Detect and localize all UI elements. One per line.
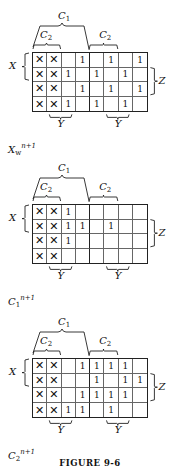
kmap-cell: ✕ — [47, 374, 61, 389]
kmap-cell: 1 — [119, 388, 133, 403]
kmap-cell — [133, 403, 147, 418]
kmap-cell: ✕ — [47, 68, 61, 83]
kmap-cell — [104, 234, 118, 249]
kmap-cell — [90, 82, 104, 97]
karnaugh-map-3: C1C2C2XZYY✕✕1111✕✕111✕✕1111✕✕111C2n+1 — [0, 306, 180, 456]
y-label-left: Y — [58, 118, 65, 129]
kmap-cell — [133, 249, 147, 264]
kmap-cell — [76, 97, 90, 112]
kmap-cell — [104, 97, 118, 112]
kmap-cell — [119, 234, 133, 249]
kmap-cell — [62, 53, 76, 68]
kmap-grid: ✕✕1111✕✕111✕✕1111✕✕111 — [32, 358, 148, 418]
kmap-cell: 1 — [119, 359, 133, 374]
kmap-grid: ✕✕111✕✕111✕✕111✕✕111 — [32, 52, 148, 112]
kmap-cell: ✕ — [47, 403, 61, 418]
kmap-cell — [119, 53, 133, 68]
kmap-cell: 1 — [62, 205, 76, 220]
kmap-cell — [104, 68, 118, 83]
kmap-cell — [104, 249, 118, 264]
kmap-cell: 1 — [104, 82, 118, 97]
kmap-cell: 1 — [76, 53, 90, 68]
kmap-cell — [119, 249, 133, 264]
kmap-cell — [62, 82, 76, 97]
kmap-cell — [90, 234, 104, 249]
kmap-cell: ✕ — [47, 53, 61, 68]
kmap-cell: 1 — [133, 374, 147, 389]
kmap-cell — [90, 220, 104, 235]
z-label: Z — [158, 381, 165, 392]
kmap-cell — [90, 205, 104, 220]
kmap-cell — [76, 249, 90, 264]
y-label-right: Y — [115, 118, 122, 129]
kmap-cell: 1 — [104, 220, 118, 235]
kmap-cell: ✕ — [33, 220, 47, 235]
kmap-cell: ✕ — [33, 388, 47, 403]
kmap-cell — [133, 220, 147, 235]
c1-label: C1 — [58, 10, 70, 23]
kmap-cell — [76, 68, 90, 83]
kmap-cell: 1 — [119, 374, 133, 389]
kmap-cell — [119, 205, 133, 220]
kmap-cell — [133, 97, 147, 112]
kmap-cell: 1 — [119, 97, 133, 112]
y-label-left: Y — [58, 270, 65, 281]
kmap-cell: 1 — [62, 220, 76, 235]
kmap-cell — [119, 403, 133, 418]
kmap-cell: 1 — [76, 388, 90, 403]
kmap-cell — [76, 374, 90, 389]
kmap-cell: 1 — [76, 220, 90, 235]
kmap-cell — [76, 205, 90, 220]
kmap-cell: 1 — [90, 68, 104, 83]
kmap-cell: 1 — [104, 388, 118, 403]
kmap-cell: ✕ — [33, 234, 47, 249]
kmap-cell: 1 — [104, 359, 118, 374]
kmap-cell: ✕ — [47, 82, 61, 97]
x-label: X — [9, 366, 16, 377]
y-label-right: Y — [115, 270, 122, 281]
kmap-cell: 1 — [76, 359, 90, 374]
kmap-cell — [119, 220, 133, 235]
c2-label-left: C2 — [40, 29, 52, 42]
kmap-cell: 1 — [119, 68, 133, 83]
kmap-cell: 1 — [104, 53, 118, 68]
kmap-cell: ✕ — [47, 220, 61, 235]
kmap-cell: 1 — [104, 403, 118, 418]
kmap-cell: ✕ — [47, 234, 61, 249]
x-label: X — [9, 212, 16, 223]
kmap-cell: ✕ — [33, 403, 47, 418]
kmap-cell: ✕ — [33, 359, 47, 374]
c2-label-right: C2 — [99, 181, 111, 194]
kmap-cell: ✕ — [33, 68, 47, 83]
kmap-cell — [62, 359, 76, 374]
kmap-cell: 1 — [90, 374, 104, 389]
kmap-cell — [62, 374, 76, 389]
kmap-cell: ✕ — [33, 97, 47, 112]
kmap-cell: 1 — [133, 82, 147, 97]
kmap-cell — [133, 359, 147, 374]
karnaugh-map-1: C1C2C2XZYY✕✕111✕✕111✕✕111✕✕111Xwn+1 — [0, 0, 180, 150]
kmap-cell — [119, 82, 133, 97]
c2-label-right: C2 — [99, 29, 111, 42]
kmap-cell: 1 — [76, 82, 90, 97]
x-label: X — [9, 60, 16, 71]
c1-label: C1 — [58, 162, 70, 175]
kmap-cell — [104, 374, 118, 389]
kmap-cell — [133, 68, 147, 83]
kmap-cell — [104, 205, 118, 220]
c2-label-left: C2 — [40, 335, 52, 348]
c2-label-right: C2 — [99, 335, 111, 348]
kmap-grid: ✕✕1✕✕111✕✕1✕✕ — [32, 204, 148, 264]
c1-label: C1 — [58, 316, 70, 329]
z-label: Z — [158, 75, 165, 86]
kmap-cell: 1 — [62, 403, 76, 418]
kmap-cell: ✕ — [47, 205, 61, 220]
y-label-left: Y — [58, 424, 65, 435]
kmap-cell — [133, 205, 147, 220]
karnaugh-map-2: C1C2C2XZYY✕✕1✕✕111✕✕1✕✕C1n+1 — [0, 152, 180, 302]
kmap-cell: ✕ — [47, 388, 61, 403]
kmap-cell: 1 — [62, 97, 76, 112]
kmap-cell — [62, 388, 76, 403]
kmap-cell — [90, 53, 104, 68]
kmap-cell: 1 — [133, 53, 147, 68]
